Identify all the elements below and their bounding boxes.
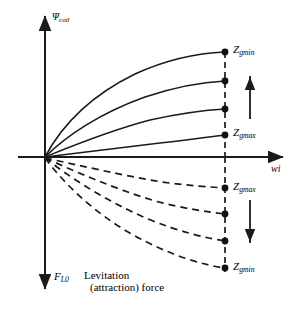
- z-subscript: gmax: [239, 131, 256, 140]
- force-symbol-letter: F: [54, 270, 61, 282]
- y-axis-label: Ψcoil: [52, 12, 70, 23]
- levitation-force-curves: [45, 158, 225, 268]
- marker-flux-zgmax: [222, 132, 229, 139]
- figure-canvas: Ψcoil wi Zgmin Zgmax Zgmax Zgmin FL0 Lev…: [0, 0, 304, 312]
- z-gmin-upper-label: Zgmin: [233, 44, 255, 56]
- z-subscript: gmin: [239, 48, 254, 57]
- marker-flux-zgmin: [222, 49, 229, 56]
- curve-force-gap-3: [45, 158, 225, 214]
- levitation-force-caption: Levitation (attraction) force: [84, 270, 164, 293]
- flux-linkage-curves: [45, 52, 225, 157]
- z-gmax-lower-label: Zgmax: [233, 181, 256, 193]
- curve-flux-zgmin: [45, 52, 225, 157]
- force-caption-line2: (attraction) force: [90, 282, 164, 294]
- curve-force-zgmax: [45, 158, 225, 188]
- z-subscript: gmax: [239, 185, 256, 194]
- marker-force-gap2: [222, 238, 229, 245]
- force-symbol-subscript: L0: [61, 275, 69, 284]
- marker-force-zgmax: [222, 185, 229, 192]
- force-caption-line1: Levitation: [84, 269, 129, 281]
- y-axis-symbol: Ψ: [52, 11, 59, 22]
- marker-flux-gap3: [222, 106, 229, 113]
- marker-force-zgmin: [222, 265, 229, 272]
- y-axis-subscript: coil: [59, 16, 70, 24]
- curve-force-zgmin: [45, 158, 225, 268]
- x-axis-label: wi: [271, 164, 280, 175]
- z-gmax-upper-label: Zgmax: [233, 127, 256, 139]
- marker-force-gap3: [222, 211, 229, 218]
- z-subscript: gmin: [239, 265, 254, 274]
- curve-flux-gap-3: [45, 109, 225, 157]
- diagram-svg: [0, 0, 304, 312]
- marker-flux-gap2: [222, 78, 229, 85]
- z-gmin-lower-label: Zgmin: [233, 261, 255, 273]
- levitation-force-symbol: FL0: [54, 271, 69, 283]
